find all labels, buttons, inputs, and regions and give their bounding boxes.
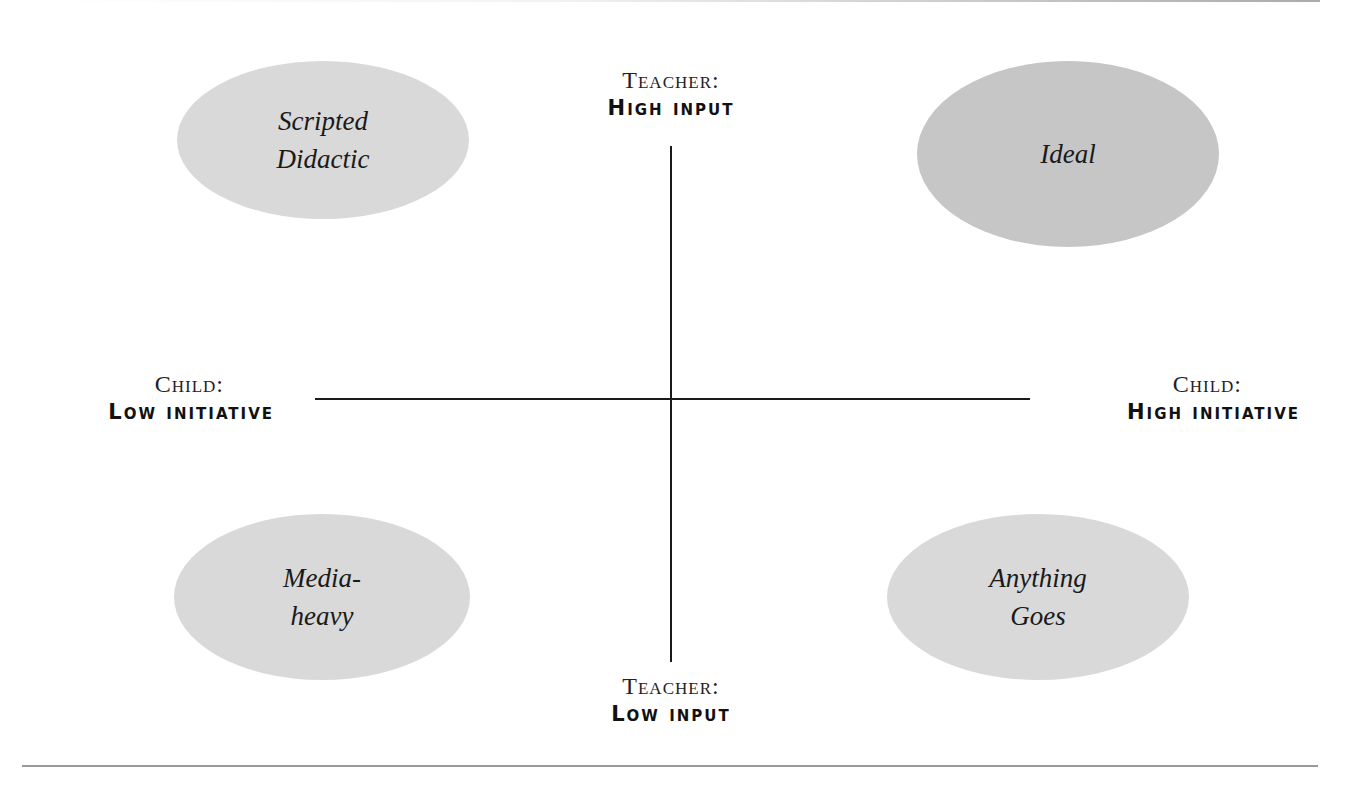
axis-left-level: Low initiative bbox=[44, 398, 274, 426]
axis-bottom-level: Low input bbox=[571, 700, 771, 728]
axis-right-role: Child: bbox=[1060, 370, 1300, 398]
quadrant-top-left-line2: Didactic bbox=[277, 140, 370, 178]
axis-right-level: High initiative bbox=[1060, 398, 1300, 426]
axis-top-role: Teacher: bbox=[571, 66, 771, 94]
vertical-axis bbox=[670, 146, 672, 662]
axis-bottom-role: Teacher: bbox=[571, 672, 771, 700]
bottom-rule bbox=[22, 765, 1318, 767]
quadrant-scripted-didactic: Scripted Didactic bbox=[177, 61, 469, 219]
quadrant-bottom-right-line2: Goes bbox=[989, 597, 1086, 635]
quadrant-bottom-left-line2: heavy bbox=[283, 597, 361, 635]
quadrant-top-left-line1: Scripted bbox=[277, 102, 370, 140]
quadrant-top-right-line1: Ideal bbox=[1040, 135, 1095, 173]
horizontal-axis bbox=[315, 398, 1030, 400]
axis-top-level: High input bbox=[571, 94, 771, 122]
axis-label-left: Child: Low initiative bbox=[44, 370, 274, 426]
axis-left-role: Child: bbox=[44, 370, 274, 398]
quadrant-media-heavy: Media- heavy bbox=[174, 514, 470, 680]
axis-label-right: Child: High initiative bbox=[1060, 370, 1300, 426]
axis-label-top: Teacher: High input bbox=[571, 66, 771, 122]
top-rule bbox=[40, 0, 1320, 2]
quadrant-bottom-right-line1: Anything bbox=[989, 559, 1086, 597]
quadrant-ideal: Ideal bbox=[917, 61, 1219, 247]
quadrant-anything-goes: Anything Goes bbox=[887, 514, 1189, 680]
quadrant-bottom-left-line1: Media- bbox=[283, 559, 361, 597]
axis-label-bottom: Teacher: Low input bbox=[571, 672, 771, 728]
